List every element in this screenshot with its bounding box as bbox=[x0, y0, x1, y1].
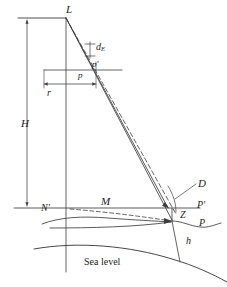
label-ground-point: P bbox=[199, 218, 205, 228]
diagram-svg bbox=[0, 0, 227, 287]
label-terrain-elevation: h bbox=[186, 236, 191, 246]
label-image-point: p bbox=[78, 71, 83, 80]
elevation-dimension-line bbox=[172, 221, 180, 262]
label-image-point-displaced: p′ bbox=[92, 60, 98, 69]
label-sea-level: Sea level bbox=[84, 257, 120, 267]
slant-distance-leader bbox=[175, 184, 196, 199]
label-radial-distance: r bbox=[47, 88, 51, 98]
label-slant-distance: D bbox=[198, 178, 206, 189]
datum-ray-solid bbox=[66, 18, 168, 208]
label-flying-height: H bbox=[21, 118, 29, 129]
diagram-canvas: L dE p′ p r H N′ M D P′ Z P h Sea level bbox=[0, 0, 227, 287]
terrain-profile-right bbox=[172, 221, 221, 227]
terrain-profile-lower bbox=[50, 222, 171, 228]
label-ground-distance: M bbox=[101, 196, 110, 207]
label-ground-point-datum: P′ bbox=[197, 200, 205, 210]
label-curvature-correction: Z bbox=[180, 210, 186, 220]
label-nadir-ground: N′ bbox=[41, 203, 50, 213]
ground-point-arrowhead bbox=[164, 218, 172, 224]
curvature-corrected-ray-dashed bbox=[66, 18, 176, 214]
label-earth-curvature-displacement: dE bbox=[96, 42, 105, 53]
label-lens-point: L bbox=[66, 4, 72, 15]
sea-level-arc bbox=[34, 245, 227, 282]
de-subscript: E bbox=[101, 45, 105, 52]
